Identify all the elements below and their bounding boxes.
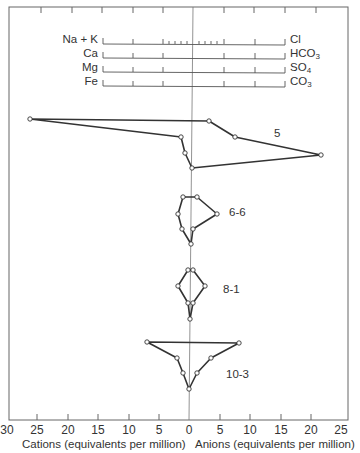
anion-label-hco3: HCO3 (290, 47, 320, 61)
anion-label-so4: SO4 (290, 61, 311, 75)
scale-row-mg-so4 (103, 66, 285, 73)
x-tick-label: 15 (274, 423, 287, 437)
legend-key-scales (103, 38, 285, 87)
x-tick-label: 5 (217, 423, 224, 437)
x-tick-label: 20 (304, 423, 317, 437)
cation-label-ca: Ca (38, 47, 98, 59)
polygon-sample-10-3 (145, 340, 241, 391)
anion-label-co3: CO3 (290, 75, 312, 89)
x-tick-label: 5 (156, 423, 163, 437)
top-axis-ticks (41, 7, 316, 13)
polygon-sample-8-1 (176, 268, 207, 321)
sample-label-10-3: 10-3 (226, 368, 249, 380)
x-tick-label: 25 (30, 423, 43, 437)
polygon-sample-5 (28, 117, 323, 170)
cation-label-na-k: Na + K (38, 33, 98, 45)
sample-label-8-1: 8-1 (223, 283, 240, 295)
x-tick-label: 10 (243, 423, 256, 437)
x-tick-label: 30 (0, 423, 13, 437)
bottom-axis-ticks (37, 414, 311, 420)
sample-label-5: 5 (274, 127, 280, 139)
zero-axis-line (189, 7, 193, 420)
scale-row-ca-hco3 (103, 52, 285, 59)
polygon-sample-6-6 (176, 195, 219, 246)
scale-row-na-k-cl (103, 38, 285, 45)
x-tick-label: 15 (91, 423, 104, 437)
x-axis-title-cations: Cations (equivalents per million) (22, 438, 186, 450)
x-tick-label: 25 (334, 423, 347, 437)
x-axis-title-anions: Anions (equivalents per million) (195, 438, 355, 450)
x-tick-label: 10 (122, 423, 135, 437)
stiff-diagram-chart: Na + K Ca Mg Fe Cl HCO3 SO4 CO3 5 6-6 8-… (0, 0, 360, 453)
scale-row-fe-co3 (103, 80, 285, 87)
sample-label-6-6: 6-6 (229, 206, 246, 218)
cation-label-mg: Mg (38, 61, 98, 73)
x-tick-label: 0 (186, 423, 193, 437)
x-tick-label: 20 (61, 423, 74, 437)
anion-label-cl: Cl (290, 33, 301, 45)
cation-label-fe: Fe (38, 75, 98, 87)
